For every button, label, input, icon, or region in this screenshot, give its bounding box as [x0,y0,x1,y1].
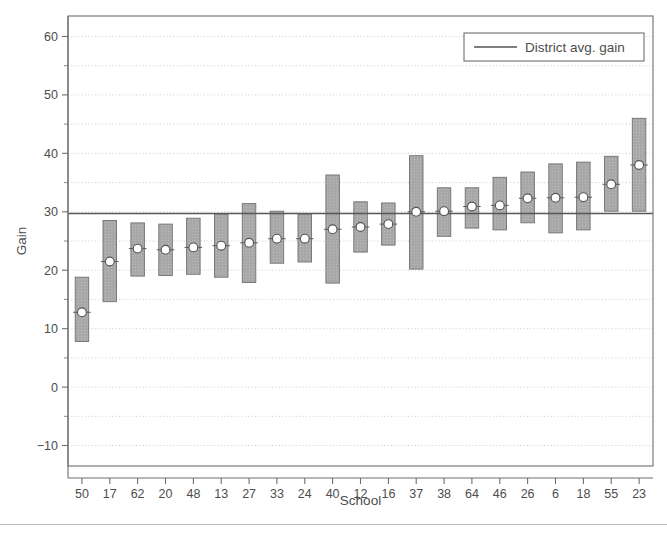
x-axis-title: School [340,493,381,508]
chart-figure: −100102030405060501762204813273324401216… [0,0,667,534]
school-average-marker [328,225,337,234]
school-average-marker [300,234,309,243]
x-axis-tick-label: 17 [103,487,117,501]
x-axis-tick-label: 55 [604,487,618,501]
x-axis-tick-label: 27 [242,487,256,501]
legend: District avg. gain [464,33,644,61]
x-axis-tick-label: 40 [326,487,340,501]
school-average-marker [440,207,449,216]
school-average-marker [523,194,532,203]
school-average-marker [273,234,282,243]
page-divider [0,524,667,525]
x-axis-tick-label: 64 [465,487,479,501]
x-axis-tick-label: 62 [131,487,145,501]
x-axis-tick-label: 38 [437,487,451,501]
school-average-marker [635,161,644,170]
school-average-marker [551,193,560,202]
school-average-marker [78,308,87,317]
y-axis-tick-label: 60 [44,30,58,44]
x-axis-tick-label: 50 [75,487,89,501]
x-axis-tick-label: 33 [270,487,284,501]
x-axis-tick-label: 20 [159,487,173,501]
school-average-marker [356,223,365,232]
school-average-marker [133,244,142,253]
y-axis-tick-label: 0 [51,381,58,395]
school-average-marker [579,193,588,202]
x-axis-tick-label: 23 [632,487,646,501]
legend-label-district-avg-gain: District avg. gain [525,40,625,55]
school-average-marker [105,257,114,266]
x-axis-tick-label: 13 [214,487,228,501]
school-average-marker [468,202,477,211]
x-axis-tick-label: 37 [409,487,423,501]
y-axis-tick-label: 40 [44,147,58,161]
y-axis-title: Gain [14,227,29,256]
school-average-marker [412,207,421,216]
x-axis-tick-label: 24 [298,487,312,501]
x-axis-tick-label: 46 [493,487,507,501]
x-axis-tick-label: 16 [381,487,395,501]
x-axis-tick-label: 18 [576,487,590,501]
x-axis-tick-label: 48 [186,487,200,501]
y-axis-tick-label: −10 [37,439,58,453]
school-average-marker [384,220,393,229]
school-average-marker [245,238,254,247]
y-axis-tick-label: 50 [44,88,58,102]
school-average-marker [495,201,504,210]
x-axis-tick-label: 26 [521,487,535,501]
y-axis-tick-label: 10 [44,322,58,336]
school-average-marker [189,243,198,252]
x-axis-tick-label: 6 [552,487,559,501]
range-bar-chart: −100102030405060501762204813273324401216… [0,0,667,534]
school-average-marker [607,180,616,189]
y-axis-tick-label: 20 [44,264,58,278]
school-average-marker [161,245,170,254]
school-average-marker [217,241,226,250]
y-axis-tick-label: 30 [44,205,58,219]
